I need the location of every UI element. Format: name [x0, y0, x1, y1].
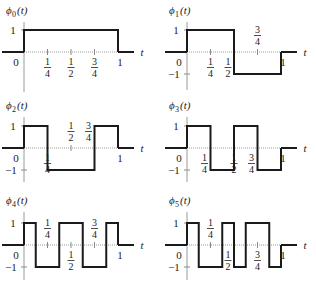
panel-title: ϕ3(t)	[169, 99, 191, 114]
origin-label: 0	[13, 152, 19, 164]
axis-variable-t: t	[140, 142, 144, 154]
end-label: 1	[117, 249, 123, 261]
walsh-function-figure: ϕ0(t)101t141234ϕ1(t)1−101t141234ϕ2(t)1−1…	[0, 0, 316, 290]
fraction-half: 12	[225, 56, 232, 79]
fraction-half-denominator: 2	[69, 261, 74, 272]
fraction-half-numerator: 1	[226, 56, 231, 67]
fraction-half-denominator: 2	[69, 132, 74, 143]
fraction-three-quarter-denominator: 4	[249, 164, 254, 175]
fraction-three-quarter: 34	[254, 24, 261, 47]
fraction-quarter-numerator: 1	[208, 56, 213, 67]
end-label: 1	[117, 56, 123, 68]
fraction-quarter-numerator: 1	[45, 152, 50, 163]
panel-title: ϕ1(t)	[169, 4, 191, 19]
fraction-three-quarter: 34	[254, 249, 261, 272]
fraction-three-quarter: 34	[85, 120, 92, 143]
fraction-quarter-numerator: 1	[45, 56, 50, 67]
end-label: 1	[280, 249, 286, 261]
phi-argument: (t)	[17, 194, 28, 207]
fraction-quarter: 14	[207, 217, 214, 240]
panel-title: ϕ0(t)	[6, 4, 28, 19]
fraction-quarter: 14	[201, 152, 208, 175]
phi-argument: (t)	[180, 4, 191, 17]
y-label-minus-one: −1	[168, 261, 180, 273]
fraction-three-quarter-denominator: 4	[255, 36, 260, 47]
panel-title: ϕ5(t)	[169, 194, 191, 209]
fraction-quarter-denominator: 4	[208, 229, 213, 240]
origin-label: 0	[176, 56, 182, 68]
fraction-quarter-denominator: 4	[45, 164, 50, 175]
fraction-half-numerator: 1	[232, 152, 237, 163]
panel-phi3: ϕ3(t)1−101t141234	[165, 99, 307, 182]
fraction-half: 12	[225, 249, 232, 272]
fraction-quarter-denominator: 4	[45, 68, 50, 79]
end-label: 1	[117, 152, 123, 164]
walsh-waveform	[24, 30, 118, 52]
phi-argument: (t)	[180, 99, 191, 112]
fraction-half-denominator: 2	[69, 68, 74, 79]
fraction-half-denominator: 2	[232, 164, 237, 175]
panel-title: ϕ2(t)	[6, 99, 28, 114]
y-label-minus-one: −1	[168, 164, 180, 176]
fraction-half: 12	[68, 56, 75, 79]
phi-subscript: 2	[12, 105, 16, 114]
y-label-minus-one: −1	[5, 164, 17, 176]
fraction-quarter: 14	[207, 56, 214, 79]
phi-argument: (t)	[17, 99, 28, 112]
panel-title: ϕ4(t)	[6, 194, 28, 209]
y-label-one: 1	[10, 217, 16, 229]
y-label-minus-one: −1	[168, 68, 180, 80]
origin-label: 0	[176, 249, 182, 261]
panel-phi4: ϕ4(t)1−101t141234	[2, 194, 144, 280]
phi-subscript: 5	[175, 200, 179, 209]
axis-variable-t: t	[140, 239, 144, 251]
y-label-minus-one: −1	[5, 261, 17, 273]
fraction-half-numerator: 1	[69, 120, 74, 131]
fraction-quarter-denominator: 4	[208, 68, 213, 79]
fraction-three-quarter-numerator: 3	[249, 152, 254, 163]
fraction-quarter-numerator: 1	[202, 152, 207, 163]
fraction-three-quarter: 34	[248, 152, 255, 175]
fraction-three-quarter: 34	[91, 217, 98, 240]
phi-subscript: 1	[175, 10, 179, 19]
origin-label: 0	[13, 56, 19, 68]
fraction-three-quarter-numerator: 3	[92, 56, 97, 67]
panel-phi0: ϕ0(t)101t141234	[2, 4, 144, 92]
fraction-three-quarter-numerator: 3	[86, 120, 91, 131]
fraction-three-quarter-denominator: 4	[255, 261, 260, 272]
fraction-quarter: 14	[44, 152, 51, 175]
fraction-half: 12	[68, 120, 75, 143]
phi-subscript: 3	[175, 105, 179, 114]
axis-variable-t: t	[303, 142, 307, 154]
y-label-one: 1	[173, 217, 179, 229]
fraction-quarter: 14	[44, 217, 51, 240]
fraction-three-quarter-numerator: 3	[255, 24, 260, 35]
end-label: 1	[280, 56, 286, 68]
end-label: 1	[280, 152, 286, 164]
fraction-half: 12	[231, 152, 238, 175]
fraction-three-quarter-denominator: 4	[92, 68, 97, 79]
fraction-half: 12	[68, 249, 75, 272]
origin-label: 0	[176, 152, 182, 164]
fraction-quarter-denominator: 4	[45, 229, 50, 240]
axis-variable-t: t	[140, 46, 144, 58]
phi-argument: (t)	[17, 4, 28, 17]
fraction-three-quarter-denominator: 4	[92, 229, 97, 240]
fraction-three-quarter-numerator: 3	[255, 249, 260, 260]
fraction-quarter: 14	[44, 56, 51, 79]
phi-subscript: 4	[12, 200, 16, 209]
y-label-one: 1	[173, 120, 179, 132]
fraction-quarter-numerator: 1	[208, 217, 213, 228]
fraction-half-numerator: 1	[226, 249, 231, 260]
y-label-one: 1	[173, 24, 179, 36]
panel-phi1: ϕ1(t)1−101t141234	[165, 4, 307, 90]
axis-variable-t: t	[303, 46, 307, 58]
fraction-three-quarter-denominator: 4	[86, 132, 91, 143]
axis-variable-t: t	[303, 239, 307, 251]
fraction-half-numerator: 1	[69, 249, 74, 260]
fraction-half-denominator: 2	[226, 68, 231, 79]
phi-subscript: 0	[12, 10, 16, 19]
fraction-half-denominator: 2	[226, 261, 231, 272]
fraction-three-quarter: 34	[91, 56, 98, 79]
panel-phi5: ϕ5(t)1−101t141234	[165, 194, 307, 280]
